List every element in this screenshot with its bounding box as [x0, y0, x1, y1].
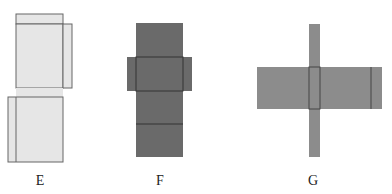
net-f	[127, 23, 192, 157]
label-f: F	[156, 173, 164, 189]
net-e	[8, 14, 72, 162]
net-g	[257, 24, 382, 157]
label-e: E	[36, 173, 45, 189]
nets-diagram	[0, 0, 392, 194]
label-g: G	[308, 173, 318, 189]
